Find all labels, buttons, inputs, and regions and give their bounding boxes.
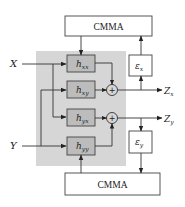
input-x-label: X: [9, 58, 18, 69]
output-zx-label: Zx: [163, 86, 174, 97]
cmma-top-label: CMMA: [93, 22, 123, 32]
filter-hyy: hyy: [67, 137, 95, 155]
svg-text:+: +: [109, 114, 116, 123]
adder-x: +: [107, 85, 118, 96]
cmma-block-bottom: CMMA: [65, 173, 160, 195]
filter-hyx: hyx: [67, 109, 95, 126]
cmma-equalizer-diagram: CMMA CMMA X Y hxx hxy hyx hyy + +: [0, 0, 185, 207]
error-block-x: εx: [129, 55, 152, 76]
filter-hxy: hxy: [67, 81, 95, 98]
cmma-block-top: CMMA: [65, 16, 152, 36]
filter-hxx: hxx: [67, 55, 95, 72]
adder-y: +: [107, 113, 118, 124]
input-y-label: Y: [10, 140, 18, 151]
output-zy-label: Zy: [163, 114, 174, 126]
svg-text:+: +: [109, 86, 116, 95]
cmma-bottom-label: CMMA: [97, 180, 127, 190]
error-block-y: εy: [129, 131, 152, 153]
